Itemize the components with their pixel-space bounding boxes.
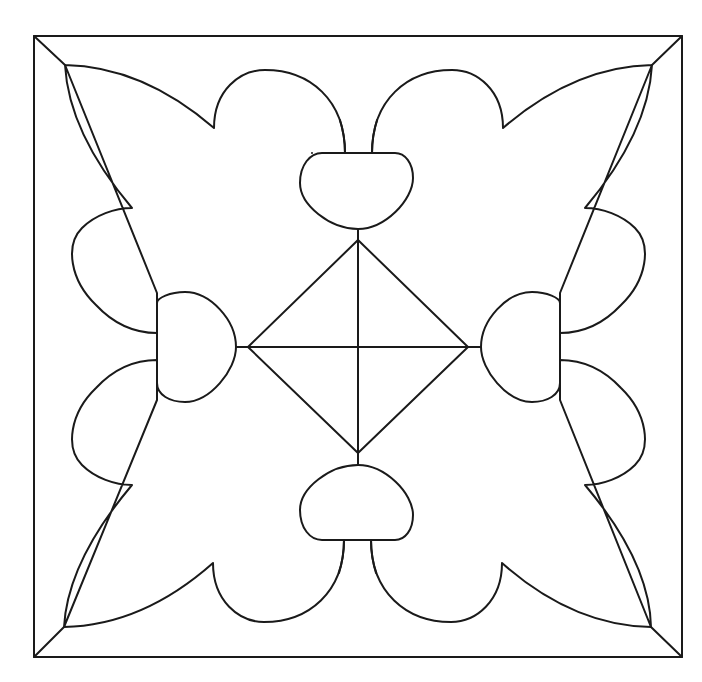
- knob-left: [157, 292, 236, 402]
- knob-right: [481, 292, 560, 402]
- tile-diagram: [0, 0, 702, 682]
- center-cross: [248, 240, 468, 453]
- knob-bottom-stems: [339, 540, 376, 573]
- knob-top: [300, 153, 413, 229]
- knob-bottom: [300, 465, 413, 540]
- leaf-top-right: [372, 65, 652, 333]
- tile-svg: [0, 0, 702, 682]
- knob-top-stems: [340, 120, 377, 153]
